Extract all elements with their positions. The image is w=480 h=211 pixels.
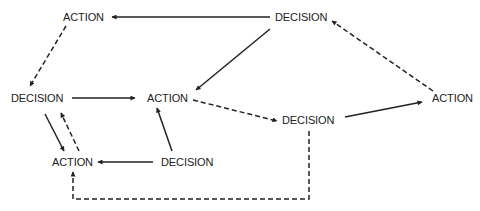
edge-decision-center-right-to-action-right — [345, 102, 422, 117]
edge-action-right-to-decision-top-right — [332, 21, 433, 91]
node-action-top-left: ACTION — [63, 11, 104, 23]
node-action-right: ACTION — [432, 92, 473, 104]
edges-layer — [0, 0, 480, 211]
edge-decision-top-right-to-action-center — [196, 29, 270, 90]
edge-decision-bottom-center-to-action-center — [157, 108, 172, 151]
edge-action-top-left-to-decision-left — [30, 26, 66, 86]
node-decision-top-right: DECISION — [275, 11, 327, 23]
node-decision-center-right: DECISION — [282, 114, 334, 126]
node-decision-bottom-center: DECISION — [161, 156, 213, 168]
edge-action-bottom-left-to-decision-left — [61, 113, 79, 151]
edge-decision-left-to-action-bottom-left — [45, 114, 64, 151]
edge-action-center-to-decision-center-right — [193, 100, 277, 121]
node-decision-left: DECISION — [11, 92, 63, 104]
node-action-center: ACTION — [147, 92, 188, 104]
flow-diagram: ACTION DECISION DECISION ACTION DECISION… — [0, 0, 480, 211]
node-action-bottom-left: ACTION — [52, 156, 93, 168]
